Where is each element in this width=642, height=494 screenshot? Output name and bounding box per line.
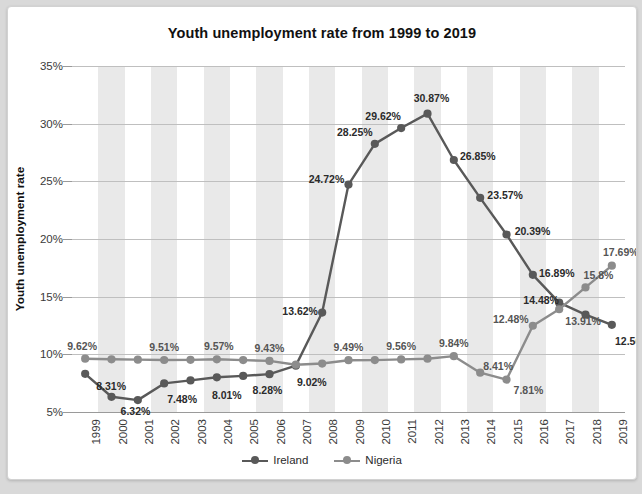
data-label: 8.28% <box>253 384 283 396</box>
data-point <box>265 370 273 378</box>
data-label: 8.31% <box>96 380 126 392</box>
x-tick-label: 2004 <box>222 419 234 445</box>
data-point <box>134 396 142 404</box>
data-point <box>81 370 89 378</box>
data-label: 20.39% <box>515 225 551 237</box>
data-label: 28.25% <box>337 126 373 138</box>
data-point <box>107 355 115 363</box>
data-label: 7.48% <box>167 393 197 405</box>
legend-item-nigeria[interactable]: Nigeria <box>334 454 401 466</box>
data-label: 9.57% <box>204 340 234 352</box>
y-tick-mark <box>63 124 72 125</box>
x-axis-line <box>72 412 625 413</box>
y-tick-label: 20% <box>40 233 63 245</box>
x-tick-label: 2017 <box>564 419 576 445</box>
x-tick-label: 2000 <box>117 419 129 445</box>
data-label: 9.49% <box>334 341 364 353</box>
data-label: 9.84% <box>439 337 469 349</box>
y-tick-label: 30% <box>40 118 63 130</box>
data-point <box>502 375 510 383</box>
data-point <box>186 356 194 364</box>
data-label: 26.85% <box>460 150 496 162</box>
x-tick-label: 2013 <box>459 419 471 445</box>
chart-figure: Youth unemployment rate from 1999 to 201… <box>7 6 637 480</box>
data-point <box>239 372 247 380</box>
x-tick-label: 2016 <box>538 419 550 445</box>
data-point <box>423 355 431 363</box>
data-label: 13.91% <box>565 315 601 327</box>
data-point <box>529 271 537 279</box>
data-label: 24.72% <box>309 173 345 185</box>
y-tick-mark <box>63 66 72 67</box>
data-point <box>450 156 458 164</box>
data-point <box>265 357 273 365</box>
chart-legend: Ireland Nigeria <box>8 454 636 466</box>
data-label: 30.87% <box>414 92 450 104</box>
data-point <box>502 230 510 238</box>
data-point <box>107 393 115 401</box>
data-label: 13.62% <box>282 305 318 317</box>
data-label: 7.81% <box>514 384 544 396</box>
data-series <box>72 66 625 412</box>
data-label: 29.62% <box>365 110 401 122</box>
data-point <box>608 321 616 329</box>
data-point <box>397 124 405 132</box>
data-point <box>213 373 221 381</box>
data-point <box>581 283 589 291</box>
data-label: 6.32% <box>121 405 151 417</box>
data-label: 9.02% <box>297 376 327 388</box>
x-tick-label: 2010 <box>380 419 392 445</box>
data-point <box>344 356 352 364</box>
x-tick-label: 2007 <box>301 419 313 445</box>
x-tick-label: 2009 <box>354 419 366 445</box>
data-label: 12.48% <box>493 313 529 325</box>
x-tick-label: 2014 <box>485 419 497 445</box>
data-point <box>371 356 379 364</box>
data-point <box>318 308 326 316</box>
y-tick-label: 10% <box>40 348 63 360</box>
y-tick-label: 15% <box>40 291 63 303</box>
data-point <box>160 379 168 387</box>
data-label: 17.69% <box>603 246 637 258</box>
y-tick-mark <box>63 239 72 240</box>
x-tick-label: 2003 <box>196 419 208 445</box>
data-point <box>186 376 194 384</box>
data-point <box>476 194 484 202</box>
y-tick-label: 25% <box>40 175 63 187</box>
legend-marker-ireland <box>242 455 268 466</box>
y-tick-label: 35% <box>40 60 63 72</box>
data-label: 8.01% <box>212 389 242 401</box>
data-point <box>160 356 168 364</box>
x-tick-label: 1999 <box>90 419 102 445</box>
x-tick-label: 2008 <box>327 419 339 445</box>
y-tick-mark <box>63 412 72 413</box>
x-tick-label: 2018 <box>591 419 603 445</box>
data-point <box>292 361 300 369</box>
x-tick-label: 2006 <box>275 419 287 445</box>
data-label: 15.8% <box>584 269 614 281</box>
data-point <box>450 352 458 360</box>
data-point <box>81 355 89 363</box>
plot-area: 5%10%15%20%25%30%35% Youth unemployment … <box>72 66 625 412</box>
legend-item-ireland[interactable]: Ireland <box>242 454 308 466</box>
data-label: 23.57% <box>487 189 523 201</box>
x-tick-label: 2012 <box>433 419 445 445</box>
x-tick-label: 2005 <box>248 419 260 445</box>
data-point <box>423 110 431 118</box>
data-label: 16.89% <box>539 267 575 279</box>
y-tick-label: 5% <box>46 406 63 418</box>
data-point <box>397 355 405 363</box>
x-tick-label: 2002 <box>169 419 181 445</box>
data-point <box>555 305 563 313</box>
data-point <box>318 359 326 367</box>
chart-title: Youth unemployment rate from 1999 to 201… <box>8 25 636 41</box>
data-label: 12.56% <box>615 335 637 347</box>
data-point <box>371 140 379 148</box>
data-point <box>134 356 142 364</box>
legend-marker-nigeria <box>334 455 360 466</box>
x-tick-label: 2001 <box>143 419 155 445</box>
data-point <box>344 180 352 188</box>
legend-label-ireland: Ireland <box>273 454 308 466</box>
y-axis-label: Youth unemployment rate <box>13 167 27 312</box>
data-label: 8.41% <box>483 360 513 372</box>
